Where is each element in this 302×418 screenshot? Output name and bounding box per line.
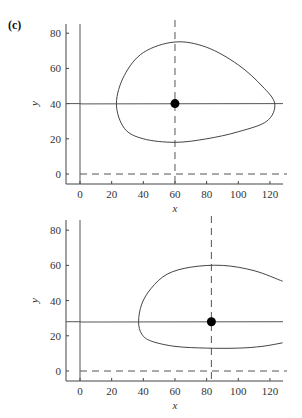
y-tick-label: 80 <box>50 224 62 236</box>
x-tick-label: 100 <box>230 385 247 397</box>
y-tick-label: 0 <box>56 168 62 180</box>
panel-label: (c) <box>8 18 21 32</box>
x-tick-label: 100 <box>230 188 247 200</box>
x-tick-label: 40 <box>138 188 150 200</box>
phase-plot-top: 020406080020406080100120xy <box>28 20 287 214</box>
y-tick-label: 40 <box>50 295 62 307</box>
y-tick-label: 40 <box>50 98 62 110</box>
x-axis-label: x <box>172 399 178 411</box>
y-tick-label: 60 <box>50 259 62 271</box>
equilibrium-point <box>207 317 216 326</box>
x-axis-label: x <box>172 202 178 214</box>
y-axis-label: y <box>28 101 40 107</box>
trajectory-orbit <box>139 265 283 348</box>
y-tick-label: 20 <box>50 133 62 145</box>
x-tick-label: 60 <box>169 188 181 200</box>
x-tick-label: 80 <box>201 385 213 397</box>
x-tick-label: 120 <box>262 385 279 397</box>
equilibrium-point <box>170 99 179 108</box>
x-tick-label: 80 <box>201 188 213 200</box>
x-tick-label: 120 <box>262 188 279 200</box>
x-tick-label: 20 <box>106 188 118 200</box>
x-tick-label: 20 <box>106 385 118 397</box>
y-tick-label: 20 <box>50 330 62 342</box>
y-tick-label: 0 <box>56 365 62 377</box>
phase-plot-bottom: 020406080020406080100120xy <box>28 216 287 411</box>
y-tick-label: 80 <box>50 27 62 39</box>
x-tick-label: 0 <box>77 188 83 200</box>
x-tick-label: 60 <box>169 385 181 397</box>
x-tick-label: 0 <box>77 385 83 397</box>
y-axis-label: y <box>28 298 40 304</box>
trajectory-orbit <box>116 42 274 143</box>
figure: (c) 020406080020406080100120xy 020406080… <box>0 0 302 418</box>
x-tick-label: 40 <box>138 385 150 397</box>
y-tick-label: 60 <box>50 62 62 74</box>
